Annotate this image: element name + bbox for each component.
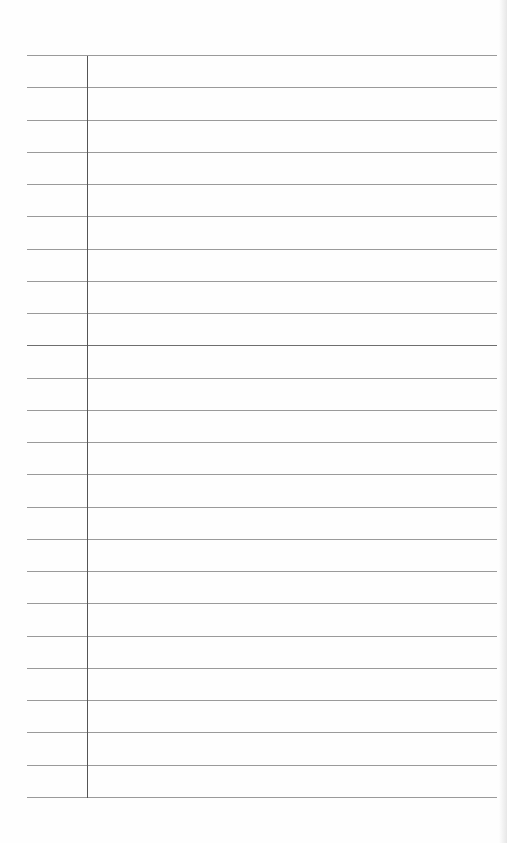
ruled-line xyxy=(27,765,497,766)
ruled-line xyxy=(27,732,497,733)
ruled-line xyxy=(27,216,497,217)
ruled-line xyxy=(27,474,497,475)
ruled-line xyxy=(27,636,497,637)
ruled-line xyxy=(27,55,497,56)
ruled-line xyxy=(27,539,497,540)
ruled-line xyxy=(27,571,497,572)
page-edge-shadow xyxy=(499,0,507,843)
ruled-line xyxy=(27,700,497,701)
ruled-line xyxy=(27,120,497,121)
ruled-paper-page xyxy=(0,0,507,843)
ruled-line xyxy=(27,410,497,411)
ruled-line xyxy=(27,152,497,153)
ruled-line xyxy=(27,313,497,314)
ruled-line xyxy=(27,507,497,508)
ruled-line xyxy=(27,184,497,185)
ruled-line xyxy=(27,442,497,443)
ruled-line xyxy=(27,345,497,346)
ruled-line xyxy=(27,668,497,669)
ruled-line xyxy=(27,797,497,798)
ruled-line xyxy=(27,603,497,604)
ruled-line xyxy=(27,378,497,379)
margin-line xyxy=(87,56,88,798)
ruled-line xyxy=(27,281,497,282)
ruled-line xyxy=(27,87,497,88)
ruled-line xyxy=(27,249,497,250)
